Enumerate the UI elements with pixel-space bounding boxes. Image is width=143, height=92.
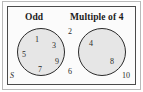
element-mult-4: 4 <box>89 40 93 48</box>
element-odd-1: 1 <box>35 36 39 44</box>
element-outside-6: 6 <box>68 68 72 76</box>
element-odd-7: 7 <box>38 66 42 74</box>
venn-diagram-figure: Odd Multiple of 4 1 3 5 7 9 4 8 2 6 10 S <box>0 0 143 92</box>
universal-set-label: S <box>10 72 14 80</box>
element-mult-8: 8 <box>110 58 114 66</box>
element-outside-10: 10 <box>122 72 130 80</box>
set-circle-multiple-of-4 <box>78 28 126 76</box>
element-odd-3: 3 <box>52 42 56 50</box>
element-outside-2: 2 <box>68 28 72 36</box>
element-odd-5: 5 <box>22 51 26 59</box>
set-label-multiple-of-4: Multiple of 4 <box>70 12 124 22</box>
set-label-odd: Odd <box>25 12 43 22</box>
element-odd-9: 9 <box>55 58 59 66</box>
